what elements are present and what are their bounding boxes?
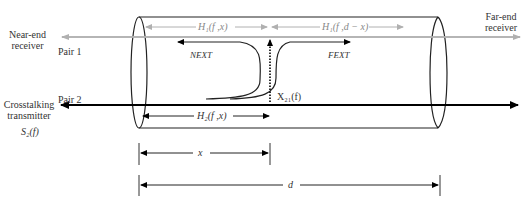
x-dimension <box>139 143 270 165</box>
cable-cylinder <box>131 17 447 128</box>
h2-label: H₂(f ,x) <box>197 110 227 121</box>
x-label: x <box>198 147 202 158</box>
near-end-line2: receiver <box>5 40 50 51</box>
pair2-label: Pair 2 <box>58 94 82 105</box>
crosstalk-tx-line2: transmitter <box>0 110 58 121</box>
far-end-receiver-label: Far-end receiver <box>476 11 526 33</box>
coupling-label: X₂₁(f) <box>277 91 301 102</box>
pair1-label: Pair 1 <box>58 46 82 57</box>
crosstalk-tx-line1: Crosstalking <box>0 99 58 110</box>
far-end-line2: receiver <box>476 22 526 33</box>
h1-near-label: H₁(f ,x) <box>198 21 228 32</box>
crosstalking-transmitter-label: Crosstalking transmitter <box>0 99 58 121</box>
near-end-receiver-label: Near-end receiver <box>5 29 50 51</box>
fext-label: FEXT <box>328 50 350 61</box>
near-end-line1: Near-end <box>5 29 50 40</box>
far-end-line1: Far-end <box>476 11 526 22</box>
h1-far-label: H₁(f ,d − x) <box>322 21 368 32</box>
source-signal-label: S₂(f) <box>21 126 39 137</box>
d-label: d <box>288 179 293 190</box>
next-label: NEXT <box>190 50 212 61</box>
